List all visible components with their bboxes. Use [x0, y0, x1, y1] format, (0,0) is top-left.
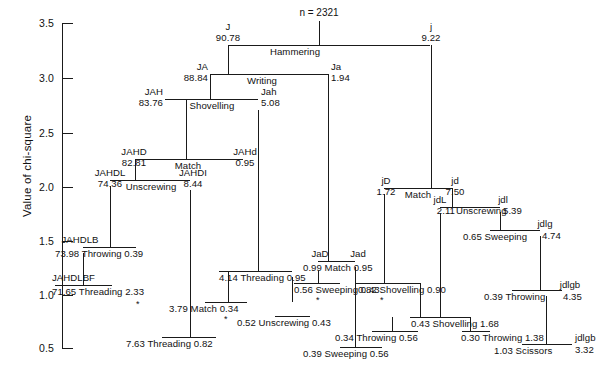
asterisk-marker-2: * [224, 315, 228, 324]
node-label-JAHd: JAHd [233, 147, 257, 157]
node-value-jdlgb-truncated: 3.32 [575, 345, 594, 355]
stem-j [431, 45, 432, 188]
node-label-JAHDI: JAHDI [179, 168, 207, 178]
node-value-jdl: 5.39 [503, 206, 522, 216]
node-label-jdlgb-truncated: jdlgb [575, 333, 596, 343]
node-label-jdlg: jdlg [537, 219, 552, 229]
node-label-JAH: JAH [145, 87, 163, 97]
y-axis-tick-0.5 [62, 348, 73, 349]
node-label-JAHD: JAHD [121, 147, 146, 157]
y-axis-label-1.0: 1.0 [20, 289, 54, 301]
node-value-jd: 7.50 [446, 187, 465, 197]
split-label-sweeping-2: 0.39 Sweeping 0.56 [303, 349, 389, 359]
y-axis-label-0.5: 0.5 [20, 342, 54, 354]
stem-jdlgb [546, 296, 547, 344]
split-label-writing: Writing [247, 76, 277, 86]
node-value-JAHDI: 8.44 [184, 179, 203, 189]
node-label-Jad: Jad [350, 249, 366, 259]
node-label-Jah: Jah [261, 87, 277, 97]
split-label-throwing-3: 0.30 Throwing 1.38 [461, 333, 544, 343]
node-label-JAHDLB: JAHDLB [61, 235, 98, 245]
node-label-j: j [430, 22, 432, 32]
stem-Jah [258, 110, 259, 271]
stem-Ja [328, 74, 329, 261]
root-stem [319, 21, 320, 45]
split-label-throwing-4: 0.39 Throwing [484, 292, 545, 302]
y-axis-title: Value of chi-square [21, 86, 33, 246]
stem-JAHD [135, 159, 136, 180]
node-value-Ja: 1.94 [331, 73, 350, 83]
node-label-JaD: JaD [311, 249, 328, 259]
split-label-scissors-1: 1.03 Scissors [494, 346, 552, 356]
y-axis-label-3.5: 3.5 [20, 17, 54, 29]
stem-4.14 [228, 271, 229, 302]
split-label-unscrewing-1: Unscrewing [126, 182, 177, 192]
node-value-jdlg: 4.74 [542, 231, 561, 241]
split-bar-hammering [228, 45, 430, 46]
stem-jdlg [540, 236, 541, 290]
node-value-jD: 1.72 [377, 187, 396, 197]
y-axis-tick-3.5 [62, 23, 73, 24]
stem-0.90 [420, 283, 421, 317]
dendrogram-figure: 3.5 3.0 2.5 2.0 1.5 1.0 0.5 Value of chi… [0, 0, 599, 367]
node-value-jdlgb: 4.35 [563, 292, 582, 302]
y-axis-tick-3.0 [62, 78, 73, 79]
stem-JAHDI [190, 190, 191, 337]
node-label-Ja: Ja [331, 62, 341, 72]
node-label-JA: JA [197, 62, 208, 72]
node-label-jdlgb: jdlgb [560, 280, 581, 290]
node-value-JAH: 83.76 [139, 98, 163, 108]
node-value-JA: 88.84 [184, 73, 208, 83]
y-axis-line [62, 23, 63, 349]
node-label-jdl: jdl [498, 195, 508, 205]
split-label-threading-2: 7.63 Threading 0.82 [126, 339, 213, 349]
split-label-throwing-2: 0.34 Throwing 0.56 [335, 333, 418, 343]
stem-JAH [186, 99, 187, 159]
split-label-shovelling-2: 0.82 Shovelling 0.90 [358, 285, 446, 295]
asterisk-marker-1: * [136, 300, 140, 309]
asterisk-marker-4: * [380, 296, 384, 305]
split-label-sweeping-3: 0.65 Sweeping [463, 232, 527, 242]
y-axis-tick-2.5 [62, 133, 73, 134]
stem-jD [384, 194, 385, 283]
stem-J [228, 45, 229, 74]
stem-jdl [500, 212, 501, 230]
y-axis-label-3.0: 3.0 [20, 72, 54, 84]
split-label-shovelling-1: Shovelling [190, 101, 235, 111]
node-label-jd: jd [451, 176, 459, 186]
asterisk-marker-3: * [316, 296, 320, 305]
node-value-J: 90.78 [216, 33, 240, 43]
stem-jdL [440, 213, 441, 317]
split-label-shovelling-3: 0.43 Shovelling 1.68 [411, 319, 499, 329]
node-value-j: 9.22 [422, 33, 441, 43]
node-value-JAHd: 0.95 [236, 158, 255, 168]
y-axis-tick-2.0 [62, 187, 73, 188]
total-n-label: n = 2321 [299, 7, 338, 18]
stem-throwing-2 [392, 317, 393, 331]
split-label-match-2: 3.79 Match 0.34 [169, 304, 239, 314]
node-label-jD: jD [381, 176, 390, 186]
split-label-throwing-1: 73.98 Throwing 0.39 [55, 249, 143, 259]
node-label-JAHDL: JAHDL [95, 168, 126, 178]
stem-throwing-3 [470, 317, 471, 331]
node-label-J: J [226, 22, 231, 32]
split-label-match-4: Match [405, 190, 431, 200]
node-label-JAHDLBF: JAHDLBF [52, 273, 95, 283]
split-label-unscrewing-2: 0.52 Unscrewing 0.43 [237, 318, 331, 328]
node-label-jdL: jdL [434, 195, 447, 205]
split-label-threading-1: 71.65 Threading 2.33 [52, 287, 144, 297]
node-value-Jah: 5.08 [261, 98, 280, 108]
split-label-match-3: 0.99 Match 0.95 [303, 263, 373, 273]
split-label-hammering: Hammering [270, 47, 320, 57]
stem-JA [210, 74, 211, 99]
stem-JAHDL [110, 186, 111, 247]
